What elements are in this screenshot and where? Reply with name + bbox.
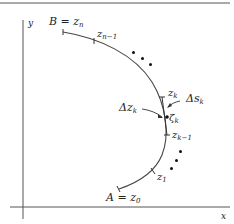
x-axis-label: x: [221, 212, 226, 221]
label-zk: zk: [168, 88, 178, 100]
label-zn-1: zn−1: [97, 29, 117, 41]
arrowhead-delta-s: [167, 103, 172, 108]
label-A: A = z0: [106, 192, 140, 205]
label-zk-1: zk−1: [172, 130, 192, 142]
ellipsis-dot: [141, 57, 144, 60]
label-delta-s: Δsk: [186, 93, 204, 106]
label-z1: z1: [157, 172, 167, 184]
ellipsis-dot: [170, 167, 173, 170]
label-delta-z: Δzk: [119, 102, 137, 115]
ellipsis-dot: [175, 159, 178, 162]
y-axis-label: y: [28, 19, 33, 28]
ellipsis-dot: [179, 150, 182, 153]
label-B: B = zn: [49, 16, 84, 29]
ellipsis-dot: [149, 63, 152, 66]
label-zeta-k: ζk: [169, 113, 179, 125]
ellipsis-dot: [132, 51, 135, 54]
